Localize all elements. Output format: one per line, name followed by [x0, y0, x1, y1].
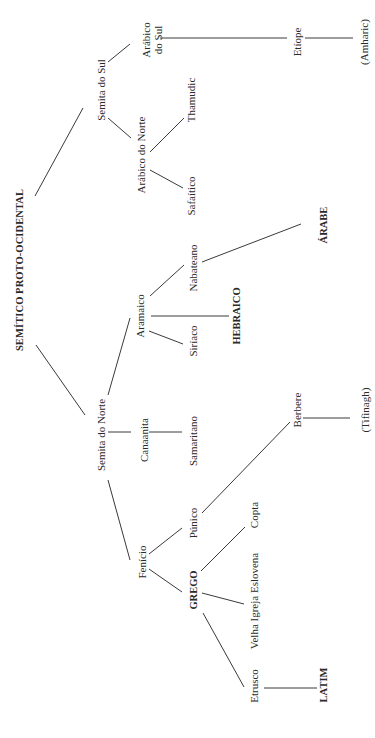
edge-nabateano-arabe [202, 224, 301, 262]
node-latim: LATIM [318, 668, 330, 703]
node-semita-do-norte: Semita do Norte [95, 399, 107, 471]
node-samaritano: Samaritano [187, 416, 199, 466]
node-punico: Púnico [187, 508, 199, 539]
edge-punico-berbere [202, 422, 290, 513]
node-arabico-do-sul: Arábico do Sul [140, 22, 164, 57]
edge-aramaico-siriaco [149, 331, 183, 344]
node-berbere: Berbere [291, 393, 303, 428]
node-semitico-proto-ocidental: SEMÍTICO PROTO-OCIDENTAL [14, 189, 26, 351]
node-etiope: Etíope [291, 28, 303, 57]
node-canaanita: Canaanita [138, 418, 150, 462]
node-velha-igreja-eslovena: Velha Igreja Eslovena [248, 553, 260, 650]
edge-root-semita_norte [36, 345, 85, 415]
node-amharic: (Amharic) [358, 19, 370, 65]
node-siriaco: Siríaco [187, 325, 199, 356]
edge-grego-etrusco [203, 613, 244, 687]
edge-root-semita_sul [35, 108, 83, 196]
language-family-tree: SEMÍTICO PROTO-OCIDENTAL Semita do Sul S… [0, 0, 375, 738]
node-arabico-do-sul-line1: Arábico [140, 22, 152, 57]
node-arabico-do-sul-line2: do Sul [152, 22, 164, 57]
edge-semita_sul-arabico_sul [108, 44, 130, 62]
edge-fenicio-punico [149, 528, 182, 554]
edge-fenicio-grego [149, 569, 182, 592]
edge-semita_norte-fenicio [108, 480, 130, 560]
node-thamudic: Thamudic [185, 78, 197, 123]
edge-aramaico-nabateano [150, 265, 184, 296]
node-hebraico: HEBRAICO [231, 287, 243, 344]
edge-grego-velha_igreja [202, 593, 244, 604]
node-safaitico: Safaítico [185, 176, 197, 215]
node-semita-do-sul: Semita do Sul [95, 59, 107, 121]
edge-semita_sul-arabico_norte [108, 118, 131, 138]
node-tifinagh: (Tifinagh) [359, 388, 371, 433]
edge-arabico_norte-safaitico [150, 170, 183, 188]
node-etrusco: Etrusco [248, 669, 260, 703]
node-fenicio: Fenício [136, 546, 148, 579]
node-arabe: ÁRABE [318, 207, 330, 244]
edge-semita_norte-aramaico [108, 318, 130, 395]
node-grego: GREGO [188, 570, 200, 609]
node-aramaico: Aramaico [134, 294, 146, 337]
edge-arabico_norte-thamudic [150, 118, 184, 152]
node-arabico-do-norte: Arábico do Norte [135, 117, 147, 194]
edge-grego-copta [201, 527, 245, 571]
node-copta: Copta [248, 502, 260, 528]
node-nabateano: Nabateano [187, 244, 199, 291]
